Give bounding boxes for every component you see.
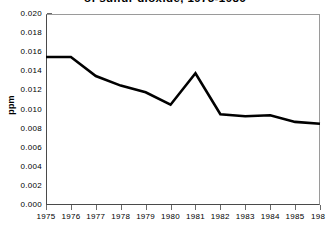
- data-line-sulfur-dioxide: [46, 57, 320, 124]
- data-series-layer: [0, 0, 330, 230]
- sulfur-dioxide-line-chart: of sulfur dioxide, 1975-1986 ppm 0.0200.…: [0, 0, 330, 230]
